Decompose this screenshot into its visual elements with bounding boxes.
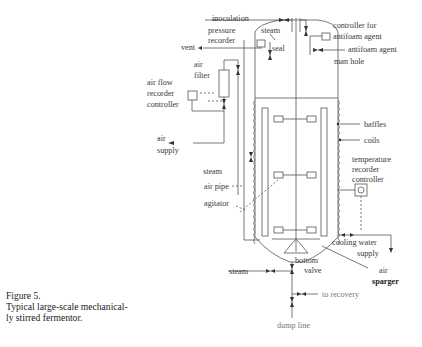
label-air-filter-2: filter [194,71,210,80]
label-pressure-recorder-1: pressure [208,26,235,35]
label-air-flow-3: controller [147,100,179,109]
label-to-recovery: to recovery [322,290,359,299]
label-seal: seal [272,44,285,53]
label-cooling-water-2: supply [357,249,379,258]
label-controller-antifoam-1: controller for [333,21,376,30]
label-inoculation: inoculation [212,14,249,23]
label-air-sparger-1: air [379,266,388,275]
label-temperature-3: controller [352,175,384,184]
baffle-left [262,108,268,236]
label-air-sparger-2: sparger [372,277,399,286]
temperature-controller-box [355,184,367,196]
label-temperature-2: recorder [352,165,379,174]
caption-line-1: Typical large-scale mechanical- [6,301,128,312]
label-man-hole: man hole [334,57,364,66]
label-air-filter-1: air [194,60,203,69]
label-agitator: agitator [204,199,229,208]
air-filter [219,70,229,97]
label-air-supply-1: air [157,134,166,143]
label-steam-mid: steam [203,167,222,176]
air-flow-box [188,91,197,100]
figure-number: Figure 5. [6,290,128,301]
label-controller-antifoam-2: antifoam agent [333,32,382,41]
caption-line-2: ly stirred fermentor. [6,312,128,323]
antifoam-controller-box [322,33,330,40]
label-steam-top: steam [261,26,280,35]
label-air-flow-2: recorder [147,89,174,98]
label-air-pipe: air pipe [204,182,229,191]
label-baffles: baffles [364,120,386,129]
baffle-right [321,108,327,236]
fermentor-vessel [255,20,338,262]
figure-caption: Figure 5. Typical large-scale mechanical… [6,290,128,323]
label-antifoam-agent: antifoam agent [348,45,397,54]
impellers [274,116,316,233]
label-temperature-1: temperature [352,155,391,164]
label-coils: coils [364,136,379,145]
label-vent: vent [181,43,195,52]
label-bottom-valve-2: valve [304,266,322,275]
label-dump-line: dump line [277,321,310,330]
label-cooling-water-1: cooling water [332,238,377,247]
label-steam-bottom: steam [229,267,248,276]
label-bottom-valve-1: bottom [295,256,318,265]
label-air-supply-2: supply [157,146,179,155]
label-pressure-recorder-2: recorder [208,36,235,45]
label-air-flow-1: air flow [147,78,173,87]
